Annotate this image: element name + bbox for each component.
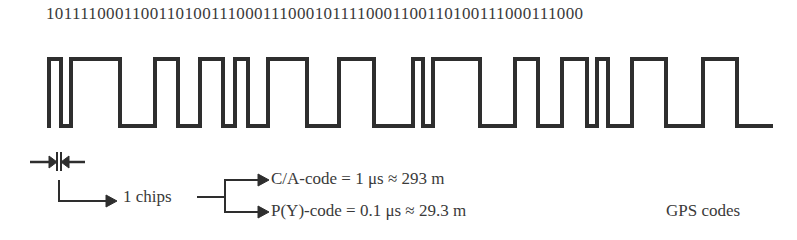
caption: GPS codes bbox=[666, 201, 740, 221]
chip-label: 1 chips bbox=[123, 187, 172, 207]
prn-code-waveform bbox=[49, 59, 773, 128]
arrow-right-icon bbox=[106, 195, 117, 207]
arrow-right-icon bbox=[258, 174, 269, 186]
code-branch-arrows bbox=[197, 174, 269, 218]
arrow-left-icon bbox=[61, 156, 69, 168]
py-code-label: P(Y)-code = 0.1 μs ≈ 29.3 m bbox=[271, 201, 466, 221]
chip-connector-arrow bbox=[59, 180, 117, 207]
arrow-right-icon bbox=[258, 206, 269, 218]
arrow-right-icon bbox=[49, 156, 57, 168]
ca-code-label: C/A-code = 1 μs ≈ 293 m bbox=[271, 169, 444, 189]
chip-width-marker bbox=[30, 152, 85, 171]
